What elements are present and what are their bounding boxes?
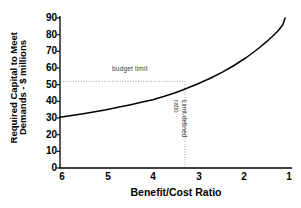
x-tick-5: 5: [98, 171, 118, 183]
budget-limit-label: budget limit: [112, 65, 148, 72]
x-tick-1: 1: [279, 171, 299, 183]
x-axis-title: Benefit/Cost Ratio: [60, 186, 292, 198]
x-tick-6: 6: [52, 171, 72, 183]
limit-defined-ratio-label-line-1: Limit-defined: [181, 100, 188, 137]
x-tick-3: 3: [189, 171, 209, 183]
x-tick-2: 2: [234, 171, 254, 183]
x-axis-tick-labels: 6 5 4 3 2 1: [0, 171, 301, 185]
limit-defined-ratio-label-line-2: ratio: [174, 100, 181, 113]
x-tick-4: 4: [143, 171, 163, 183]
limit-defined-ratio-label: Limit-defined ratio: [174, 100, 188, 156]
chart-container: Required Capital to Meet Demands - $ mil…: [0, 0, 301, 208]
